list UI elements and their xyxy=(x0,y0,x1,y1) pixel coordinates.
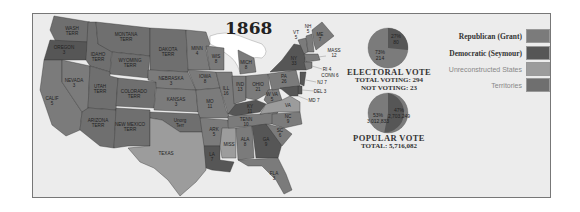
svg-text:10: 10 xyxy=(243,122,249,127)
legend-swatch-territories xyxy=(526,78,550,92)
svg-text:TERR: TERR xyxy=(124,127,137,132)
state-oregon xyxy=(44,40,88,60)
svg-text:5: 5 xyxy=(271,97,274,102)
svg-text:TERR: TERR xyxy=(92,57,105,62)
svg-text:NJ 7: NJ 7 xyxy=(317,80,327,85)
svg-text:6: 6 xyxy=(279,133,282,138)
svg-text:TERR: TERR xyxy=(92,123,105,128)
state-arizona-terr xyxy=(80,108,116,148)
popular-vote-pie: 47% 2,703,249 53% 3,012,833 xyxy=(367,93,410,133)
state-mass xyxy=(304,54,320,62)
svg-text:CONN 6: CONN 6 xyxy=(321,73,339,78)
svg-text:VA: VA xyxy=(285,103,292,108)
svg-text:8: 8 xyxy=(204,79,207,84)
svg-text:5: 5 xyxy=(295,35,298,40)
svg-text:5: 5 xyxy=(51,101,54,106)
svg-text:5: 5 xyxy=(213,132,216,137)
map-title: 1868 xyxy=(225,18,272,38)
legend-label: Unreconstructed States xyxy=(449,66,522,73)
legend-item-democratic: Democratic (Seymour) xyxy=(449,46,550,60)
svg-text:MISS: MISS xyxy=(223,142,234,147)
legend-label: Territories xyxy=(491,82,522,89)
svg-text:TEXAS: TEXAS xyxy=(158,151,173,156)
state-ny xyxy=(270,44,306,72)
legend-item-republican: Republican (Grant) xyxy=(459,29,550,43)
legend-swatch-unreconstructed xyxy=(526,62,550,76)
legend-item-territories: Territories xyxy=(491,78,550,92)
svg-text:12: 12 xyxy=(331,53,337,58)
svg-text:3: 3 xyxy=(170,81,173,86)
svg-text:3: 3 xyxy=(73,83,76,88)
state-nj xyxy=(300,72,306,86)
popular-vote-total: TOTAL: 5,716,082 xyxy=(345,143,433,151)
electoral-not-voting: NOT VOTING: 23 xyxy=(345,85,433,93)
svg-text:16: 16 xyxy=(223,91,229,96)
svg-text:11: 11 xyxy=(248,109,253,114)
svg-text:3,012,833: 3,012,833 xyxy=(367,118,389,124)
svg-text:TERR: TERR xyxy=(120,37,133,42)
svg-text:3: 3 xyxy=(63,50,66,55)
electoral-vote-pie: 27% 80 73% 214 xyxy=(368,28,408,68)
svg-text:80: 80 xyxy=(393,39,399,45)
state-fla xyxy=(238,158,292,194)
state-del xyxy=(298,86,302,94)
svg-text:TERR: TERR xyxy=(66,31,79,36)
svg-text:26: 26 xyxy=(281,79,287,84)
svg-text:33: 33 xyxy=(291,61,297,66)
svg-text:21: 21 xyxy=(255,87,261,92)
svg-text:3: 3 xyxy=(273,176,276,181)
svg-text:2,703,249: 2,703,249 xyxy=(388,113,410,119)
svg-text:7: 7 xyxy=(211,157,214,162)
svg-text:5: 5 xyxy=(307,29,310,34)
legend-swatch-democratic xyxy=(526,46,550,60)
svg-text:7: 7 xyxy=(319,37,322,42)
svg-text:8: 8 xyxy=(245,65,248,70)
popular-vote-caption: POPULAR VOTE TOTAL: 5,716,082 xyxy=(345,134,433,151)
svg-text:214: 214 xyxy=(376,55,385,61)
svg-text:8: 8 xyxy=(244,142,247,147)
svg-text:13: 13 xyxy=(237,87,243,92)
svg-text:11: 11 xyxy=(208,104,213,109)
legend-label: Democratic (Seymour) xyxy=(449,49,522,58)
svg-text:4: 4 xyxy=(196,51,199,56)
legend-item-unreconstructed: Unreconstructed States xyxy=(449,62,550,76)
svg-text:MD 7: MD 7 xyxy=(309,98,320,103)
state-md xyxy=(280,86,298,96)
svg-text:Terr: Terr xyxy=(176,123,184,128)
svg-text:8: 8 xyxy=(215,59,218,64)
svg-text:9: 9 xyxy=(287,119,290,124)
electoral-vote-caption: ELECTORAL VOTE TOTAL VOTING: 294 NOT VOT… xyxy=(345,68,433,92)
legend-label: Republican (Grant) xyxy=(459,32,522,41)
svg-text:TERR: TERR xyxy=(124,63,137,68)
svg-text:9: 9 xyxy=(265,142,268,147)
svg-text:TERR: TERR xyxy=(128,94,141,99)
svg-text:TERR: TERR xyxy=(162,52,175,57)
legend-swatch-republican xyxy=(526,29,550,43)
svg-text:TERR: TERR xyxy=(94,89,107,94)
svg-text:RI 4: RI 4 xyxy=(323,67,332,72)
svg-text:3: 3 xyxy=(175,102,178,107)
svg-text:DEL 3: DEL 3 xyxy=(314,89,327,94)
